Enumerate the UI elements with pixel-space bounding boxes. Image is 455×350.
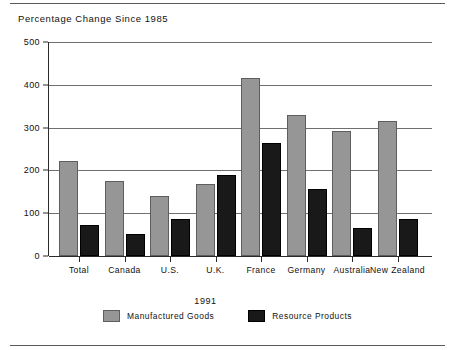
- chart-legend: Manufactured GoodsResource Products: [0, 310, 455, 322]
- legend-swatch: [248, 310, 265, 322]
- bar: [241, 78, 260, 256]
- x-tick-mark: [352, 256, 353, 262]
- x-tick-mark: [170, 256, 171, 262]
- x-tick-label: Germany: [287, 265, 325, 275]
- legend-label: Resource Products: [272, 311, 352, 321]
- x-axis-title: 1991: [0, 296, 455, 306]
- y-tick-mark: [43, 256, 48, 257]
- bar-group: Australia: [332, 42, 373, 256]
- bar: [262, 143, 281, 256]
- bar: [378, 121, 397, 256]
- bar-group-bars: [196, 42, 237, 256]
- bar: [196, 184, 215, 256]
- bar: [308, 189, 327, 256]
- bar-group: Total: [59, 42, 100, 256]
- y-tick-mark: [43, 42, 48, 43]
- top-divider: [10, 3, 445, 4]
- bar-group: Canada: [105, 42, 146, 256]
- y-tick-label: 500: [24, 37, 40, 47]
- legend-item: Resource Products: [248, 310, 352, 322]
- bar-group-bars: [59, 42, 100, 256]
- x-tick-label: New Zealand: [370, 265, 425, 275]
- x-tick-mark: [216, 256, 217, 262]
- bar: [171, 219, 190, 256]
- y-tick-label: 400: [24, 80, 40, 90]
- y-axis-line: [48, 42, 49, 256]
- y-tick-mark: [43, 213, 48, 214]
- x-tick-mark: [261, 256, 262, 262]
- bar: [217, 175, 236, 256]
- bar-group-bars: [332, 42, 373, 256]
- chart-title: Percentage Change Since 1985: [18, 13, 168, 24]
- x-tick-mark: [398, 256, 399, 262]
- x-axis-title-text: 1991: [194, 296, 216, 306]
- x-tick-mark: [307, 256, 308, 262]
- x-tick-label: Canada: [108, 265, 141, 275]
- bar: [150, 196, 169, 256]
- bar: [126, 234, 145, 256]
- y-tick-label: 0: [35, 251, 40, 261]
- y-tick-label: 100: [24, 208, 40, 218]
- bar: [59, 161, 78, 256]
- legend-item: Manufactured Goods: [103, 310, 214, 322]
- gridline: [49, 256, 432, 257]
- bar: [287, 115, 306, 256]
- bar-group-bars: [105, 42, 146, 256]
- x-tick-mark: [125, 256, 126, 262]
- bar: [332, 131, 351, 256]
- x-tick-label: U.K.: [206, 265, 224, 275]
- x-tick-label: France: [246, 265, 275, 275]
- bar-group: France: [241, 42, 282, 256]
- bar: [353, 228, 372, 256]
- bar-group: Germany: [287, 42, 328, 256]
- plot-area: 0100200300400500 TotalCanadaU.S.U.K.Fran…: [49, 42, 432, 256]
- y-tick-label: 200: [24, 165, 40, 175]
- y-tick-mark: [43, 127, 48, 128]
- bottom-divider: [10, 345, 445, 346]
- y-tick-mark: [43, 170, 48, 171]
- y-tick-mark: [43, 84, 48, 85]
- bar: [399, 219, 418, 256]
- x-tick-label: Australia: [333, 265, 370, 275]
- bar-group-bars: [287, 42, 328, 256]
- x-tick-label: U.S.: [161, 265, 179, 275]
- bar-group: U.S.: [150, 42, 191, 256]
- bar-group-bars: [150, 42, 191, 256]
- bar-group-bars: [241, 42, 282, 256]
- bar-group: New Zealand: [378, 42, 419, 256]
- legend-label: Manufactured Goods: [127, 311, 214, 321]
- x-tick-mark: [79, 256, 80, 262]
- bar-group-bars: [378, 42, 419, 256]
- bar: [80, 225, 99, 256]
- bar-group: U.K.: [196, 42, 237, 256]
- x-tick-label: Total: [69, 265, 89, 275]
- chart-figure: Percentage Change Since 1985 01002003004…: [0, 0, 455, 350]
- bar: [105, 181, 124, 256]
- legend-swatch: [103, 310, 120, 322]
- y-tick-label: 300: [24, 123, 40, 133]
